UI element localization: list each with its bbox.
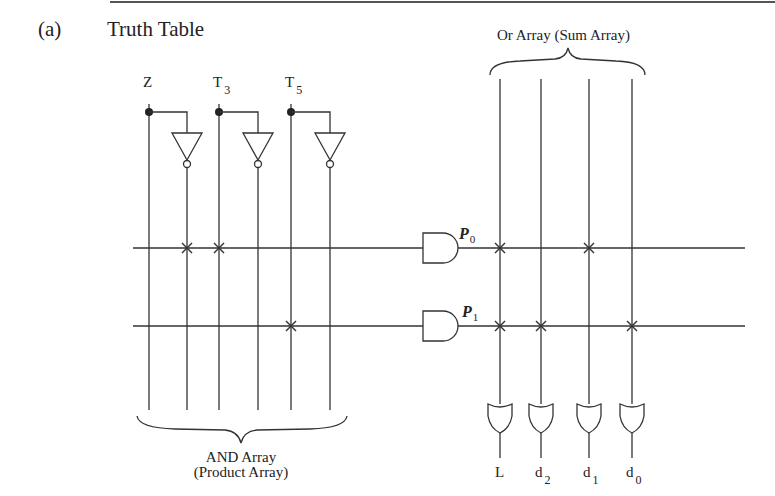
inverter-icon: [243, 133, 273, 160]
or-gate-icon: [529, 404, 553, 433]
product-label-p1: P1: [462, 303, 478, 321]
pla-diagram: [0, 0, 775, 496]
and-array-brace: [137, 416, 347, 443]
product-label-p0: P0: [459, 225, 475, 243]
or-gate-icon: [620, 404, 644, 433]
or-gate-icon: [488, 404, 512, 433]
input-label-z: Z: [143, 74, 154, 91]
inverter-icon: [172, 133, 202, 160]
input-t3-column: [215, 104, 273, 410]
output-label-l: L: [495, 464, 506, 481]
and-gate-icon: [423, 233, 458, 263]
inverter-icon: [315, 133, 345, 160]
input-label-t5: T5: [285, 74, 302, 91]
output-label-d2: d2: [535, 464, 551, 481]
input-t5-column: [287, 104, 345, 410]
or-columns: [500, 79, 632, 404]
or-gate-icon: [577, 404, 601, 433]
or-array-brace: [490, 48, 645, 75]
and-gate-icon: [423, 311, 458, 341]
and-array-label: AND Array (Product Array): [186, 450, 296, 480]
output-label-d1: d1: [583, 464, 599, 481]
or-gates: [488, 404, 644, 458]
or-connection-marks: [495, 243, 637, 331]
and-connection-marks: [182, 243, 296, 331]
or-array-label: Or Array (Sum Array): [497, 28, 630, 43]
input-z-column: [145, 104, 202, 410]
input-label-t3: T3: [213, 74, 230, 91]
output-label-d0: d0: [626, 464, 642, 481]
